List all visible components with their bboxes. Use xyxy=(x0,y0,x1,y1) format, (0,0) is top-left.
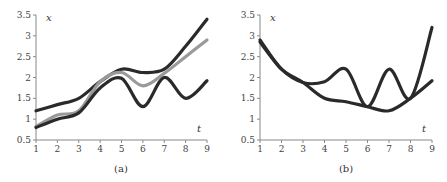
x-tick-label: 3 xyxy=(300,144,306,154)
y-tick-label: 2.5 xyxy=(241,52,256,62)
chart-panel-b: 0.511.522.533.5123456789xt(b) xyxy=(241,10,435,174)
x-tick-label: 5 xyxy=(343,144,349,154)
x-tick-label: 5 xyxy=(119,144,125,154)
series-line xyxy=(260,28,432,107)
y-tick-label: 1.5 xyxy=(241,93,256,103)
x-tick-label: 9 xyxy=(429,144,435,154)
y-tick-label: 3.5 xyxy=(17,10,32,20)
x-tick-label: 4 xyxy=(97,144,103,154)
figure: 0.511.522.533.5123456789xt(a) 0.511.522.… xyxy=(0,0,447,182)
x-tick-label: 3 xyxy=(76,144,82,154)
y-axis-label: x xyxy=(46,12,52,23)
series-line xyxy=(260,42,432,111)
x-tick-label: 8 xyxy=(183,144,189,154)
x-tick-label: 1 xyxy=(257,144,263,154)
x-axis-label: t xyxy=(422,123,427,134)
chart-panel-a: 0.511.522.533.5123456789xt(a) xyxy=(17,10,210,174)
y-tick-label: 3 xyxy=(25,31,31,41)
x-tick-label: 2 xyxy=(55,144,61,154)
x-axis-label: t xyxy=(197,123,202,134)
x-tick-label: 6 xyxy=(140,144,146,154)
y-tick-label: 2.5 xyxy=(17,52,32,62)
y-tick-label: 1.5 xyxy=(17,93,32,103)
x-tick-label: 4 xyxy=(322,144,328,154)
y-tick-label: 3.5 xyxy=(241,10,256,20)
panel-caption: (a) xyxy=(114,163,128,174)
y-axis-label: x xyxy=(270,12,276,23)
x-tick-label: 1 xyxy=(33,144,39,154)
x-tick-label: 8 xyxy=(408,144,414,154)
x-tick-label: 7 xyxy=(161,144,167,154)
x-tick-label: 9 xyxy=(204,144,210,154)
y-tick-label: 1 xyxy=(249,114,255,124)
x-tick-label: 2 xyxy=(279,144,285,154)
y-tick-label: 2 xyxy=(25,73,31,83)
y-tick-label: 2 xyxy=(249,73,255,83)
y-tick-label: 0.5 xyxy=(17,135,32,145)
panel-caption: (b) xyxy=(339,163,353,174)
x-tick-label: 7 xyxy=(386,144,392,154)
y-tick-label: 1 xyxy=(25,114,31,124)
x-tick-label: 6 xyxy=(365,144,371,154)
y-tick-label: 0.5 xyxy=(241,135,256,145)
y-tick-label: 3 xyxy=(249,31,255,41)
